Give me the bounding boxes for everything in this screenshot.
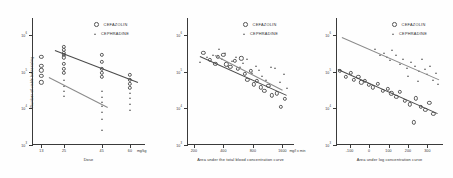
- data-point-cefazolin: [412, 120, 416, 124]
- data-point-cefazolin: [62, 55, 66, 59]
- legend-2: CEFAZOLIN CEPHRADINE: [243, 20, 278, 38]
- data-point-cephradine: [274, 67, 276, 69]
- legend-entry-cephradine: CEPHRADINE: [392, 29, 427, 38]
- y-tick-label: 104: [325, 106, 331, 111]
- y-tick: [184, 108, 188, 109]
- y-axis-line-3: [336, 18, 337, 145]
- data-point-cephradine: [432, 79, 434, 81]
- x-tick: [41, 145, 42, 149]
- x-tick: [408, 145, 409, 149]
- x-tick-label: 200: [405, 149, 411, 153]
- x-axis-title-3: Area under log concentration curve: [336, 157, 443, 162]
- data-point-cephradine: [429, 65, 431, 67]
- x-tick-label: 200: [191, 149, 197, 153]
- triangle-marker-icon: [392, 33, 394, 35]
- x-axis-line-2: [187, 144, 294, 145]
- regression-line-cefazolin: [54, 50, 137, 83]
- data-point-cephradine: [224, 52, 226, 54]
- x-axis-title-1: Dose: [32, 157, 145, 162]
- data-point-cephradine: [63, 95, 65, 97]
- x-axis-title-2: Area under the total blood concentration…: [187, 157, 294, 162]
- data-point-cephradine: [406, 67, 408, 69]
- x-tick-label: 13: [39, 149, 43, 153]
- data-point-cefazolin: [239, 56, 243, 60]
- data-point-cephradine: [395, 54, 397, 56]
- y-tick: [333, 145, 337, 146]
- data-point-cephradine: [424, 68, 426, 70]
- x-tick-label: 300: [424, 149, 430, 153]
- data-point-cephradine: [414, 65, 416, 67]
- y-tick-label: 105: [176, 69, 182, 74]
- data-point-cephradine: [261, 75, 263, 77]
- x-tick: [282, 145, 283, 149]
- data-point-cephradine: [129, 103, 131, 105]
- legend-entry-cephradine: CEPHRADINE: [243, 29, 278, 38]
- x-tick: [64, 145, 65, 149]
- data-point-cephradine: [286, 87, 288, 89]
- data-point-cefazolin: [398, 90, 402, 94]
- y-tick-label: 105: [325, 69, 331, 74]
- data-point-cefazolin: [232, 59, 236, 63]
- x-tick: [427, 145, 428, 149]
- y-tick: [333, 72, 337, 73]
- legend-label-cephradine: CEPHRADINE: [101, 32, 129, 36]
- x-tick: [102, 145, 103, 149]
- data-point-cephradine: [129, 92, 131, 94]
- data-point-cephradine: [421, 58, 423, 60]
- data-point-cefazolin: [283, 97, 287, 101]
- y-tick-label: 103: [176, 142, 182, 147]
- x-tick: [350, 145, 351, 149]
- x-tick-label: 60: [128, 149, 132, 153]
- y-tick: [333, 35, 337, 36]
- data-point-cephradine: [435, 72, 437, 74]
- data-point-cefazolin: [427, 101, 431, 105]
- x-tick: [389, 145, 390, 149]
- x-tick: [130, 145, 131, 149]
- circle-marker-icon: [94, 22, 99, 27]
- x-tick: [223, 145, 224, 149]
- plot-area-3: Area under log concentration curve CEFAZ…: [336, 18, 443, 145]
- data-point-cephradine: [279, 81, 281, 83]
- data-point-cefazolin: [128, 72, 132, 76]
- x-axis-unit-2: mg/l x min: [289, 149, 305, 153]
- data-point-cephradine: [255, 65, 257, 67]
- legend-label-cefazolin: CEFAZOLIN: [253, 23, 277, 27]
- data-point-cefazolin: [39, 63, 43, 67]
- data-point-cephradine: [383, 52, 385, 54]
- x-tick-label: 1600: [278, 149, 286, 153]
- data-point-cefazolin: [39, 68, 43, 72]
- data-point-cefazolin: [39, 55, 43, 59]
- data-point-cephradine: [101, 118, 103, 120]
- y-tick: [29, 108, 33, 109]
- data-point-cephradine: [101, 129, 103, 131]
- y-axis-line-2: [187, 18, 188, 145]
- data-point-cefazolin: [100, 75, 104, 79]
- data-point-cephradine: [231, 60, 233, 62]
- data-point-cephradine: [63, 79, 65, 81]
- data-point-cefazolin: [100, 60, 104, 64]
- data-point-cephradine: [407, 75, 409, 77]
- plot-area-1: Number of viable bacteria/mg Dose mg/kg …: [32, 18, 145, 145]
- chart-panel-total-auc: Area under the total blood concentration…: [155, 0, 304, 178]
- data-point-cefazolin: [62, 61, 66, 65]
- regression-line-cephradine: [49, 77, 108, 107]
- y-tick-label: 103: [325, 142, 331, 147]
- data-point-cefazolin: [351, 77, 355, 81]
- data-point-cephradine: [206, 56, 208, 58]
- data-point-cephradine: [101, 96, 103, 98]
- legend-entry-cefazolin: CEFAZOLIN: [243, 20, 278, 29]
- data-point-cefazolin: [252, 82, 256, 86]
- chart-panel-log-auc: Area under log concentration curve CEFAZ…: [304, 0, 453, 178]
- circle-marker-icon: [392, 22, 397, 27]
- data-point-cephradine: [374, 48, 376, 50]
- plot-area-2: Area under the total blood concentration…: [187, 18, 294, 145]
- data-point-cephradine: [402, 58, 404, 60]
- data-point-cefazolin: [62, 71, 66, 75]
- y-tick: [29, 72, 33, 73]
- y-tick-label: 106: [325, 33, 331, 38]
- circle-marker-icon: [243, 22, 248, 27]
- data-point-cephradine: [417, 80, 419, 82]
- legend-entry-cephradine: CEPHRADINE: [94, 29, 129, 38]
- data-point-cefazolin: [262, 89, 266, 93]
- regression-line-cephradine: [215, 55, 282, 90]
